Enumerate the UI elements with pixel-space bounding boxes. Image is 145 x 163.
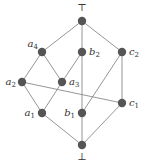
edge-top-c2 [82,21,122,52]
node-bot [78,141,86,149]
edge-a4-a2 [22,52,42,82]
node-a2 [18,78,26,86]
hasse-diagram: ⊤a4b2c2a2a3c1a1b1⊥ [0,0,145,163]
label-a4: a4 [28,38,39,51]
node-a4 [38,48,46,56]
node-top [78,17,86,25]
label-a3: a3 [69,76,79,89]
label-b1: b1 [64,107,75,120]
label-b2: b2 [89,46,100,59]
edge-c1-bot [82,103,122,145]
node-c2 [118,48,126,56]
edge-top-a4 [42,21,82,52]
edge-a4-a3 [42,52,62,82]
label-bot: ⊥ [77,151,86,162]
node-a3 [58,78,66,86]
node-b1 [78,109,86,117]
edge-a1-bot [42,113,82,145]
label-c2: c2 [129,46,139,59]
label-a2: a2 [6,76,16,89]
label-c1: c1 [129,97,139,110]
label-a1: a1 [25,107,35,120]
node-a1 [38,109,46,117]
edge-c2-b1 [82,52,122,113]
node-b2 [78,48,86,56]
label-top: ⊤ [77,2,86,13]
node-c1 [118,99,126,107]
